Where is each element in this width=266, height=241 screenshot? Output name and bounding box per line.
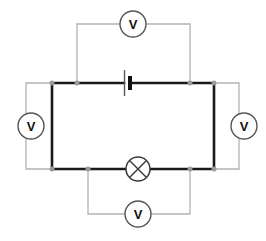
voltmeter-top-label: V [129, 17, 138, 32]
junction-top-right-tap [188, 81, 193, 86]
voltmeter-left-label: V [27, 119, 36, 134]
voltmeter-right[interactable]: V [231, 113, 257, 139]
junction-bottom-right-tap [188, 167, 193, 172]
junction-bottom-right-corner [212, 167, 217, 172]
junction-top-left-tap [75, 81, 80, 86]
battery-symbol[interactable] [125, 70, 131, 96]
lamp-symbol[interactable] [126, 157, 150, 181]
voltmeter-bottom-label: V [134, 207, 143, 222]
junction-top-left-corner [50, 81, 55, 86]
voltmeter-top[interactable]: V [120, 11, 146, 37]
junction-top-right-corner [212, 81, 217, 86]
voltmeter-right-label: V [240, 119, 249, 134]
junction-bottom-left-tap [86, 167, 91, 172]
voltmeter-left[interactable]: V [18, 113, 44, 139]
voltmeter-bottom[interactable]: V [125, 201, 151, 227]
circuit-diagram: V V V V [0, 0, 266, 241]
junction-bottom-left-corner [50, 167, 55, 172]
circuit-diagram-canvas: V V V V [0, 0, 266, 241]
voltmeter-branch-wires [26, 24, 239, 214]
main-loop-wires [52, 83, 214, 169]
